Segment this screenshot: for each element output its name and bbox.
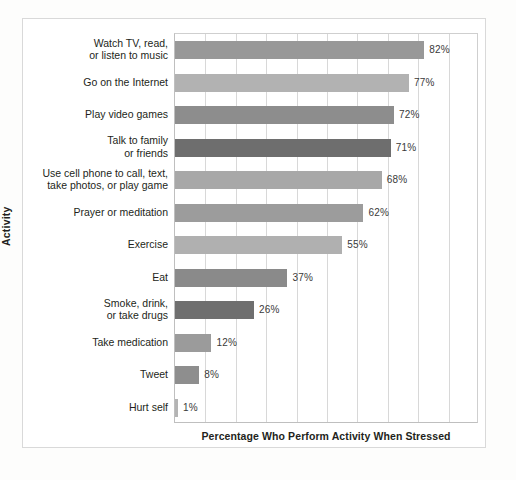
bar-row: 68% [175, 164, 477, 197]
bar-row: 71% [175, 132, 477, 165]
bar-value-label: 8% [204, 367, 219, 383]
bar-chart: 82%77%72%71%68%62%55%37%26%12%8%1% Watch… [0, 0, 516, 480]
category-label: Play video games [28, 108, 168, 121]
y-axis-title: Activity [0, 226, 76, 246]
bar[interactable] [175, 269, 287, 287]
bar[interactable] [175, 334, 211, 352]
category-label: Prayer or meditation [28, 206, 168, 219]
bar-row: 1% [175, 392, 477, 425]
category-label: Hurt self [28, 401, 168, 414]
category-label: Tweet [28, 368, 168, 381]
bar-value-label: 1% [183, 400, 198, 416]
bar-row: 77% [175, 67, 477, 100]
bar-value-label: 12% [216, 335, 237, 351]
category-label: Use cell phone to call, text, take photo… [28, 167, 168, 192]
category-label: Eat [28, 271, 168, 284]
bar-value-label: 72% [399, 107, 420, 123]
bar-row: 82% [175, 34, 477, 67]
bar[interactable] [175, 366, 199, 384]
bar-value-label: 82% [429, 42, 450, 58]
bar[interactable] [175, 171, 382, 189]
bar[interactable] [175, 399, 178, 417]
x-axis-title: Percentage Who Perform Activity When Str… [174, 430, 478, 442]
bar-value-label: 26% [259, 302, 280, 318]
bar[interactable] [175, 74, 409, 92]
bar[interactable] [175, 106, 394, 124]
bar-row: 8% [175, 359, 477, 392]
bar-value-label: 68% [387, 172, 408, 188]
bar-value-label: 77% [414, 75, 435, 91]
bar[interactable] [175, 204, 363, 222]
bar-row: 72% [175, 99, 477, 132]
bar-row: 26% [175, 294, 477, 327]
bar[interactable] [175, 41, 424, 59]
category-label: Watch TV, read, or listen to music [28, 37, 168, 62]
category-label: Take medication [28, 336, 168, 349]
bar-value-label: 55% [347, 237, 368, 253]
category-label: Go on the Internet [28, 76, 168, 89]
category-label: Smoke, drink, or take drugs [28, 297, 168, 322]
bar-value-label: 62% [368, 205, 389, 221]
bar-row: 62% [175, 197, 477, 230]
bar[interactable] [175, 139, 391, 157]
bar-value-label: 71% [396, 140, 417, 156]
bar[interactable] [175, 236, 342, 254]
bar-row: 12% [175, 327, 477, 360]
plot-area: 82%77%72%71%68%62%55%37%26%12%8%1% [174, 33, 478, 423]
bar[interactable] [175, 301, 254, 319]
category-label: Talk to family or friends [28, 134, 168, 159]
bar-row: 55% [175, 229, 477, 262]
bar-row: 37% [175, 262, 477, 295]
bar-value-label: 37% [292, 270, 313, 286]
